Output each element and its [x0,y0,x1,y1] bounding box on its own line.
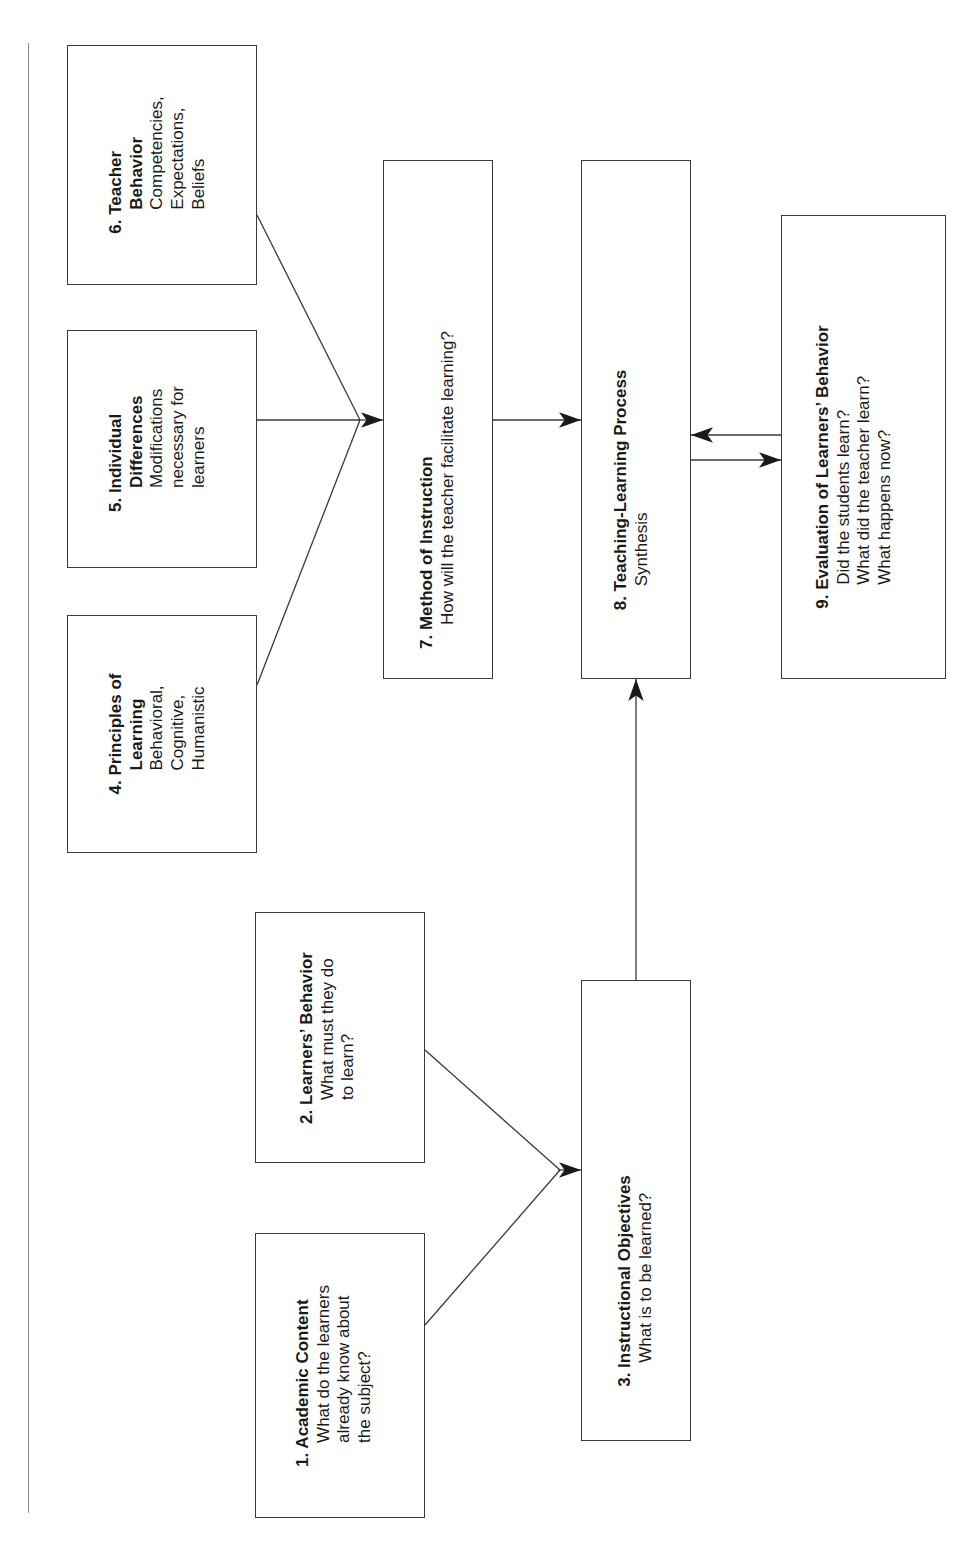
node-7-line-1: How will the teacher facilitate learning… [438,331,459,649]
edge-4-to-7 [257,420,360,685]
node-3-instructional-objectives: 3. Instructional Objectives What is to b… [581,980,691,1441]
node-7-text: 7. Method of Instruction How will the te… [417,331,458,649]
node-2-title: 2. Learners’ Behavior [297,952,318,1124]
node-5-line-2: necessary for [168,386,189,512]
node-2-text: 2. Learners’ Behavior What must they do … [297,952,359,1124]
node-5-title-line-2: Differences [127,386,148,512]
node-7-method-of-instruction: 7. Method of Instruction How will the te… [383,160,493,679]
node-4-line-1: Behavioral, [148,674,169,795]
node-1-line-3: the subject? [355,1285,376,1467]
node-9-evaluation: 9. Evaluation of Learners’ Behavior Did … [781,215,946,679]
node-7-title: 7. Method of Instruction [417,331,438,649]
node-2-line-2: to learn? [338,952,359,1124]
node-4-title-line-1: 4. Principles of [106,674,127,795]
node-5-line-3: learners [189,386,210,512]
node-4-title-line-2: Learning [127,674,148,795]
node-9-line-2: What did the teacher learn? [854,325,875,608]
node-5-title-line-1: 5. Individual [106,386,127,512]
node-1-text: 1. Academic Content What do the learners… [293,1285,376,1467]
node-8-title: 8. Teaching-Learning Process [611,369,632,610]
node-9-line-1: Did the students learn? [833,325,854,608]
node-4-line-3: Humanistic [189,674,210,795]
node-2-learners-behavior: 2. Learners’ Behavior What must they do … [255,912,425,1163]
node-5-individual-differences: 5. Individual Differences Modifications … [67,330,257,568]
edge-6-to-7 [257,215,360,420]
edge-2-to-3 [425,1050,560,1170]
diagram-canvas: 6. Teacher Behavior Competencies, Expect… [0,0,973,1541]
node-5-text: 5. Individual Differences Modifications … [106,386,210,512]
node-8-text: 8. Teaching-Learning Process Synthesis [611,369,652,610]
node-1-title: 1. Academic Content [293,1285,314,1467]
node-6-text: 6. Teacher Behavior Competencies, Expect… [106,96,210,233]
node-1-line-2: already know about [334,1285,355,1467]
node-3-text: 3. Instructional Objectives What is to b… [615,1175,656,1387]
node-5-line-1: Modifications [148,386,169,512]
node-2-line-1: What must they do [318,952,339,1124]
node-9-line-3: What happens now? [874,325,895,608]
edge-1-to-3 [425,1170,560,1325]
node-6-teacher-behavior: 6. Teacher Behavior Competencies, Expect… [67,45,257,285]
node-6-line-2: Expectations, [168,96,189,233]
node-3-line-1: What is to be learned? [636,1175,657,1387]
node-6-title-line-2: Behavior [127,96,148,233]
node-4-text: 4. Principles of Learning Behavioral, Co… [106,674,210,795]
node-1-line-1: What do the learners [313,1285,334,1467]
node-4-line-2: Cognitive, [168,674,189,795]
node-9-title: 9. Evaluation of Learners’ Behavior [812,325,833,608]
node-6-line-1: Competencies, [148,96,169,233]
node-8-teaching-learning-process: 8. Teaching-Learning Process Synthesis [581,160,691,679]
node-6-line-3: Beliefs [189,96,210,233]
node-1-academic-content: 1. Academic Content What do the learners… [255,1233,425,1518]
node-3-title: 3. Instructional Objectives [615,1175,636,1387]
node-9-text: 9. Evaluation of Learners’ Behavior Did … [812,325,895,608]
node-8-line-1: Synthesis [632,369,653,610]
node-6-title-line-1: 6. Teacher [106,96,127,233]
node-4-principles-of-learning: 4. Principles of Learning Behavioral, Co… [67,615,257,853]
